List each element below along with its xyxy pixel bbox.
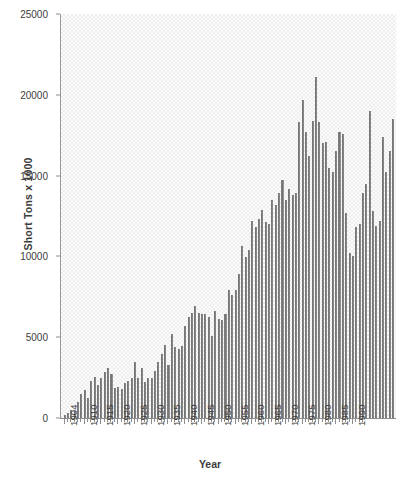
x-tick-label-1925: 1925 [138, 404, 149, 426]
x-tick-label-1920: 1920 [121, 404, 132, 426]
x-tick-label-1975: 1975 [306, 404, 317, 426]
x-tick-label-1940: 1940 [188, 404, 199, 426]
x-axis-title: Year [0, 458, 410, 470]
x-tick-label-1955: 1955 [239, 404, 250, 426]
x-tick-label-1904: 1904 [68, 404, 79, 426]
x-tick-label-1985: 1985 [339, 404, 350, 426]
x-tick-label-1960: 1960 [255, 404, 266, 426]
x-axis-tick-labels: 1904191019151920192519301935194019451950… [0, 0, 410, 480]
x-tick-label-1945: 1945 [205, 404, 216, 426]
x-tick-label-1915: 1915 [104, 404, 115, 426]
x-tick-label-1990: 1990 [356, 404, 367, 426]
x-tick-label-1980: 1980 [322, 404, 333, 426]
x-tick-label-1930: 1930 [155, 404, 166, 426]
x-tick-label-1970: 1970 [289, 404, 300, 426]
x-tick-label-1910: 1910 [88, 404, 99, 426]
x-tick-label-1950: 1950 [222, 404, 233, 426]
x-tick-label-1965: 1965 [272, 404, 283, 426]
x-tick-label-1935: 1935 [171, 404, 182, 426]
bar-chart: Short Tons x 1000 0500010000150002000025… [0, 0, 410, 480]
